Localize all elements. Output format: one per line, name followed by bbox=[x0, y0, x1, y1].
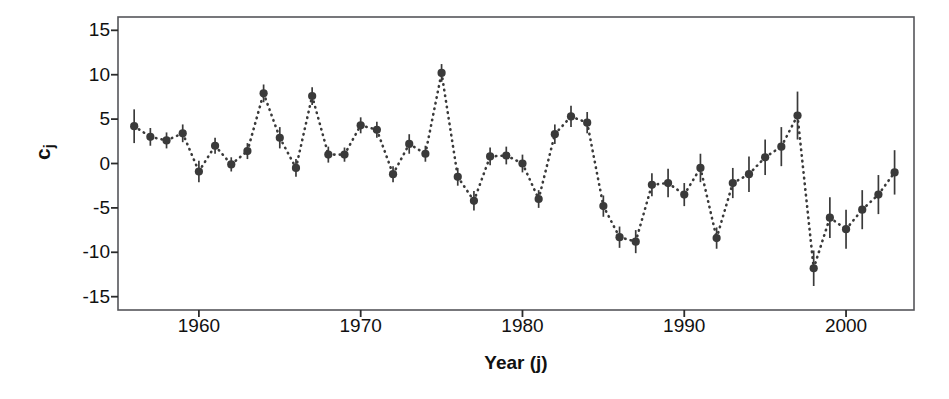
connector-segment bbox=[296, 96, 312, 168]
connector-segment bbox=[442, 73, 458, 177]
plot-frame bbox=[118, 17, 914, 310]
data-point-marker bbox=[292, 164, 300, 172]
data-point-marker bbox=[260, 89, 268, 97]
data-point-marker bbox=[729, 179, 737, 187]
data-point-marker bbox=[761, 153, 769, 161]
data-markers bbox=[130, 69, 899, 273]
data-point-marker bbox=[518, 159, 526, 167]
connector-segment bbox=[474, 156, 490, 200]
plot-area bbox=[0, 0, 949, 399]
connector-segment bbox=[522, 164, 538, 200]
connector-segment bbox=[717, 183, 733, 238]
data-point-marker bbox=[454, 173, 462, 181]
connector-segment bbox=[183, 133, 199, 171]
error-bars bbox=[134, 64, 894, 286]
data-point-marker bbox=[874, 190, 882, 198]
data-point-marker bbox=[486, 152, 494, 160]
data-point-marker bbox=[793, 111, 801, 119]
data-point-marker bbox=[632, 238, 640, 246]
data-point-marker bbox=[437, 69, 445, 77]
data-point-marker bbox=[826, 214, 834, 222]
data-point-marker bbox=[227, 160, 235, 168]
data-point-marker bbox=[890, 168, 898, 176]
data-point-marker bbox=[421, 150, 429, 158]
connector-segment bbox=[684, 168, 700, 195]
data-point-marker bbox=[680, 190, 688, 198]
connector-segment bbox=[798, 116, 814, 269]
connector-segment bbox=[199, 146, 215, 172]
axes-frame bbox=[118, 17, 914, 310]
connector-segment bbox=[377, 130, 393, 174]
connector-segment bbox=[280, 138, 296, 168]
connector-segment bbox=[587, 123, 603, 206]
data-point-marker bbox=[777, 143, 785, 151]
data-point-marker bbox=[211, 142, 219, 150]
connector-segment bbox=[247, 93, 263, 151]
chart-figure: cj 151050-5-10-15 19601970198019902000 Y… bbox=[0, 0, 949, 399]
connector-segment bbox=[393, 144, 409, 174]
data-point-marker bbox=[146, 133, 154, 141]
data-point-marker bbox=[162, 136, 170, 144]
data-point-marker bbox=[696, 164, 704, 172]
connector-segment bbox=[264, 93, 280, 137]
connector-segment bbox=[425, 73, 441, 154]
data-point-marker bbox=[276, 134, 284, 142]
data-point-marker bbox=[243, 147, 251, 155]
data-point-marker bbox=[664, 179, 672, 187]
data-point-marker bbox=[842, 225, 850, 233]
x-axis-label: Year (j) bbox=[118, 352, 914, 374]
connector-segment bbox=[814, 218, 830, 269]
data-point-marker bbox=[648, 181, 656, 189]
data-point-marker bbox=[551, 130, 559, 138]
data-point-marker bbox=[713, 234, 721, 242]
data-point-marker bbox=[179, 129, 187, 137]
data-point-marker bbox=[195, 167, 203, 175]
data-point-marker bbox=[308, 92, 316, 100]
data-point-marker bbox=[583, 119, 591, 127]
x-axis-label-text: Year (j) bbox=[484, 352, 547, 373]
connector-segment bbox=[636, 185, 652, 242]
data-point-marker bbox=[389, 170, 397, 178]
connector-segment bbox=[312, 96, 328, 155]
data-point-marker bbox=[340, 151, 348, 159]
data-point-marker bbox=[745, 170, 753, 178]
axis-ticks bbox=[111, 30, 846, 317]
connector-segment bbox=[345, 125, 361, 154]
data-point-marker bbox=[615, 233, 623, 241]
data-point-marker bbox=[130, 122, 138, 130]
data-point-marker bbox=[357, 121, 365, 129]
connector-segment bbox=[700, 168, 716, 238]
connector-segment bbox=[781, 116, 797, 147]
data-connector-line bbox=[134, 73, 894, 268]
data-point-marker bbox=[567, 112, 575, 120]
connector-segment bbox=[458, 177, 474, 201]
data-point-marker bbox=[599, 202, 607, 210]
data-point-marker bbox=[502, 151, 510, 159]
connector-segment bbox=[539, 134, 555, 199]
data-point-marker bbox=[858, 206, 866, 214]
data-point-marker bbox=[535, 195, 543, 203]
data-point-marker bbox=[405, 140, 413, 148]
data-point-marker bbox=[810, 264, 818, 272]
connector-segment bbox=[878, 172, 894, 194]
data-point-marker bbox=[470, 197, 478, 205]
data-point-marker bbox=[373, 126, 381, 134]
connector-segment bbox=[603, 206, 619, 237]
data-point-marker bbox=[324, 151, 332, 159]
